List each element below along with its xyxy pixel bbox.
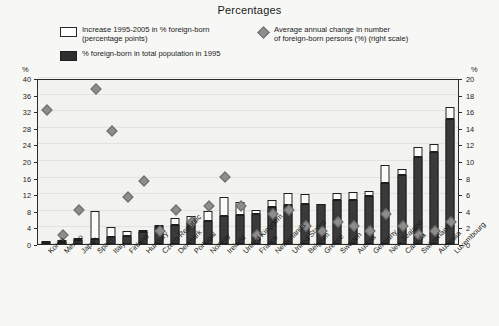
left-axis-tick [34,79,37,80]
stacked-bar[interactable] [42,242,51,244]
gridline [38,77,458,78]
bar-group[interactable] [70,80,86,244]
left-axis-tick [34,179,37,180]
right-axis-tick [459,145,462,146]
left-axis-tick [34,245,37,246]
legend-label-share-1995: % foreign-born in total population in 19… [82,49,272,58]
right-axis-tick [459,112,462,113]
right-axis-tick-label: 8 [466,175,483,184]
bar-segment-increase [413,147,422,157]
bar-segment-increase [349,192,358,200]
bar-segment-increase [42,241,51,243]
left-axis-tick-label: 16 [14,175,31,184]
open-square-swatch [60,27,77,37]
x-axis-labels: KoreaMexicoJapanSpainItalyFinlandHungary… [37,247,459,326]
bar-group[interactable] [232,80,248,244]
right-axis-tick-label: 20 [466,75,483,84]
bar-segment-increase [397,169,406,176]
left-axis-unit: % [22,65,29,74]
left-axis-tick-label: 0 [14,241,31,250]
right-axis-tick [459,228,462,229]
bar-group[interactable] [329,80,345,244]
bar-group[interactable] [151,80,167,244]
left-axis-tick-label: 32 [14,108,31,117]
right-axis-unit: % [471,65,478,74]
left-axis-tick [34,145,37,146]
annual-change-marker[interactable] [122,192,133,203]
bar-group[interactable] [377,80,393,244]
annual-change-marker[interactable] [106,125,117,136]
bar-group[interactable] [38,80,54,244]
filled-square-swatch [60,51,77,61]
right-axis-tick [459,212,462,213]
right-axis-tick [459,79,462,80]
bar-segment-increase [429,144,438,151]
legend-label-increase: Increase 1995-2005 in % foreign-born (pe… [82,25,252,44]
bar-segment-increase [445,107,454,119]
legend-label-annual-change: Average annual change in number of forei… [274,25,489,44]
bar-group[interactable] [345,80,361,244]
right-axis-tick-label: 18 [466,92,483,101]
bar-segment-increase [365,191,374,196]
right-axis-tick-label: 16 [466,108,483,117]
bar-group[interactable] [54,80,70,244]
left-axis-tick [34,96,37,97]
bar-group[interactable] [119,80,135,244]
bar-group[interactable] [135,80,151,244]
right-axis-tick-label: 12 [466,141,483,150]
right-axis-tick-label: 4 [466,208,483,217]
right-axis-tick-label: 6 [466,191,483,200]
bar-group[interactable] [426,80,442,244]
annual-change-marker[interactable] [203,200,214,211]
left-axis-tick [34,195,37,196]
left-axis-tick [34,129,37,130]
left-axis-tick-label: 12 [14,191,31,200]
bar-segment-increase [268,200,277,207]
right-axis-tick [459,96,462,97]
bar-segment-increase [300,194,309,204]
annual-change-marker[interactable] [138,175,149,186]
left-axis-tick-label: 8 [14,208,31,217]
right-axis-tick [459,179,462,180]
bar-segment-increase [252,210,261,213]
bar-group[interactable] [297,80,313,244]
right-axis-tick [459,195,462,196]
right-axis-tick-label: 14 [466,125,483,134]
right-axis-tick [459,162,462,163]
bar-group[interactable] [103,80,119,244]
bar-group[interactable] [167,80,183,244]
bar-group[interactable] [393,80,409,244]
bar-group[interactable] [86,80,102,244]
diamond-marker-icon [257,26,270,39]
bar-group[interactable] [216,80,232,244]
bar-segment-increase [381,165,390,183]
left-axis-tick [34,112,37,113]
bar-segment-increase [171,218,180,225]
left-axis-tick-label: 20 [14,158,31,167]
bar-group[interactable] [361,80,377,244]
bar-series-container [38,80,458,244]
right-axis-tick-label: 10 [466,158,483,167]
bar-group[interactable] [248,80,264,244]
annual-change-marker[interactable] [90,84,101,95]
annual-change-marker[interactable] [41,105,52,116]
left-axis-tick-label: 36 [14,92,31,101]
chart-plot-area [37,79,459,245]
left-axis-tick [34,212,37,213]
left-axis-tick-label: 24 [14,141,31,150]
left-axis-tick [34,228,37,229]
left-axis-tick-label: 28 [14,125,31,134]
chart-legend: Increase 1995-2005 in % foreign-born (pe… [0,22,499,68]
left-axis-tick-label: 4 [14,224,31,233]
annual-change-marker[interactable] [219,171,230,182]
bar-segment-increase [90,211,99,239]
annual-change-marker[interactable] [171,204,182,215]
bar-group[interactable] [442,80,458,244]
left-axis-tick-label: 40 [14,75,31,84]
page-title: Percentages [0,4,499,16]
right-axis-tick [459,129,462,130]
left-axis-tick [34,162,37,163]
bar-segment-increase [332,193,341,200]
annual-change-marker[interactable] [74,204,85,215]
bar-segment-increase [122,231,131,236]
